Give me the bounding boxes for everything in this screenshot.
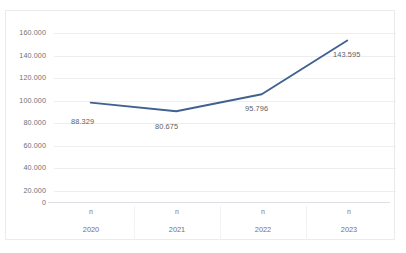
x-sublabel-2022: n xyxy=(220,206,306,217)
x-sublabel-2023: n xyxy=(306,206,392,217)
x-label-2023: 2023 xyxy=(306,224,392,235)
data-label-2020: 88.329 xyxy=(71,117,94,126)
data-label-2021: 80.675 xyxy=(155,122,178,131)
x-sublabel-2020: n xyxy=(48,206,134,217)
x-label-2020: 2020 xyxy=(48,224,134,235)
x-sublabel-2021: n xyxy=(134,206,220,217)
data-label-2022: 95.796 xyxy=(245,104,268,113)
series-polyline xyxy=(91,40,348,111)
data-label-2023: 143.595 xyxy=(333,50,360,59)
x-axis-group-2020: n 2020 xyxy=(48,206,134,235)
x-label-2021: 2021 xyxy=(134,224,220,235)
x-axis-group-2022: n 2022 xyxy=(220,206,306,235)
x-label-2022: 2022 xyxy=(220,224,306,235)
x-axis-group-2021: n 2021 xyxy=(134,206,220,235)
x-axis-group-2023: n 2023 xyxy=(306,206,392,235)
